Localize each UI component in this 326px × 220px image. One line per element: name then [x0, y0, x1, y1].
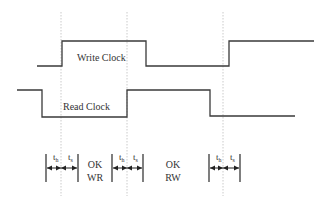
arrow-head-icon	[56, 166, 61, 171]
arrow-head-icon	[122, 166, 127, 171]
hold-time-label: th	[119, 152, 125, 163]
arrow-head-icon	[137, 166, 142, 171]
arrow-head-icon	[61, 166, 66, 171]
arrow-head-icon	[127, 166, 132, 171]
region-ok-rw-line1: OK	[166, 159, 181, 170]
arrow-head-icon	[223, 166, 228, 171]
arrow-head-icon	[72, 166, 77, 171]
hold-time-label: th	[53, 152, 59, 163]
region-ok-rw-line2: RW	[165, 172, 181, 183]
arrow-head-icon	[218, 166, 223, 171]
setup-time-label: ts	[133, 152, 139, 163]
region-ok-wr-line1: OK	[88, 159, 103, 170]
write-clock-label: Write Clock	[77, 52, 126, 63]
arrow-head-icon	[113, 166, 118, 171]
setup-time-label: ts	[230, 152, 236, 163]
timing-window-2: th ts	[112, 152, 143, 182]
arrow-head-icon	[210, 166, 215, 171]
read-clock-label: Read Clock	[63, 101, 110, 112]
setup-time-label: ts	[68, 152, 74, 163]
hold-time-label: th	[216, 152, 222, 163]
timing-diagram: Write Clock Read Clock th ts th ts th ts	[0, 0, 326, 220]
arrow-head-icon	[234, 166, 239, 171]
region-ok-wr-line2: WR	[87, 172, 103, 183]
read-clock-waveform	[17, 90, 295, 117]
timing-window-3: th ts	[209, 152, 240, 182]
arrow-head-icon	[47, 166, 52, 171]
timing-window-1: th ts	[46, 152, 78, 182]
